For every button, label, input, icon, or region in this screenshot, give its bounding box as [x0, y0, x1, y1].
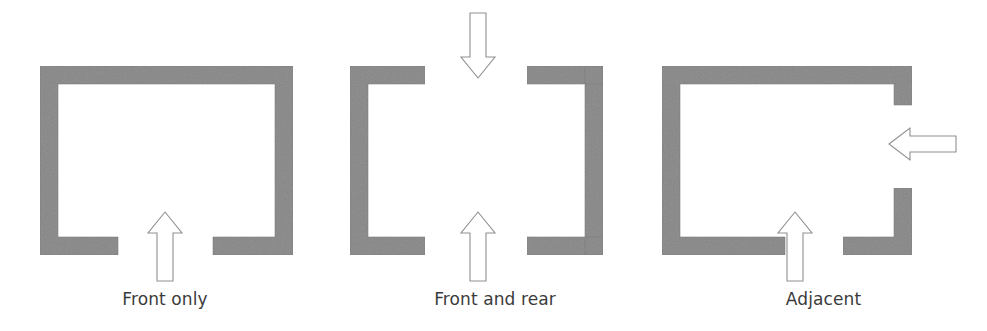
figure-root: Front only [0, 0, 987, 331]
arrow-up-front [148, 212, 182, 281]
arrow-up-front-shape [148, 212, 182, 281]
caption-front-and-rear: Front and rear [330, 288, 660, 310]
wall-left-bracket [350, 66, 425, 255]
diagram-panel-adjacent: Adjacent [660, 0, 987, 331]
diagram-front-and-rear [330, 0, 660, 288]
arrow-left-side [889, 128, 956, 160]
diagram-front-only [0, 0, 330, 288]
wall-lower-right-corner [843, 188, 912, 255]
wall-right-bracket [527, 66, 603, 255]
arrow-up-front-shape [461, 212, 495, 281]
arrow-down-rear-shape [461, 13, 495, 78]
diagram-panel-front-only: Front only [0, 0, 330, 331]
arrow-up-front [461, 212, 495, 281]
caption-adjacent: Adjacent [660, 288, 987, 310]
diagram-adjacent [660, 0, 987, 288]
arrow-down-rear [461, 13, 495, 78]
arrow-left-side-shape [889, 128, 956, 160]
diagram-panel-front-and-rear: Front and rear [330, 0, 660, 331]
caption-front-only: Front only [0, 288, 330, 310]
